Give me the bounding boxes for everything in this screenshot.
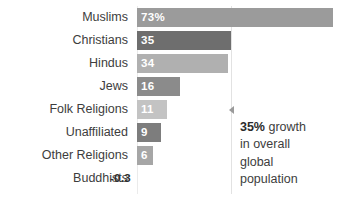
bar-value-label: -0.3 — [95, 169, 131, 188]
bar-value-label: 9 — [137, 123, 148, 142]
bar-row: Christians35 — [0, 29, 345, 52]
bar-value-label: 11 — [137, 100, 154, 119]
category-label: Unaffiliated — [0, 121, 128, 144]
annotation-growth: 35% growth in overall global population — [240, 101, 342, 189]
category-label: Other Religions — [0, 144, 128, 167]
bar-row: Jews16 — [0, 75, 345, 98]
bar-row: Hindus34 — [0, 52, 345, 75]
category-label: Muslims — [0, 6, 128, 29]
category-label: Jews — [0, 75, 128, 98]
bar-value-label: 6 — [137, 146, 148, 165]
bar-value-label: 73% — [137, 8, 165, 27]
bar-chart: Muslims73%Christians35Hindus34Jews16Folk… — [0, 0, 345, 218]
category-label: Christians — [0, 29, 128, 52]
bar — [137, 8, 333, 27]
annotation-emphasis: 35% — [240, 120, 265, 134]
bar-value-label: 16 — [137, 77, 154, 96]
bar-value-label: 34 — [137, 54, 154, 73]
category-label: Folk Religions — [0, 98, 128, 121]
bar-row: Muslims73% — [0, 6, 345, 29]
bar-value-label: 35 — [137, 31, 154, 50]
category-label: Hindus — [0, 52, 128, 75]
annotation-marker-icon — [229, 106, 234, 114]
